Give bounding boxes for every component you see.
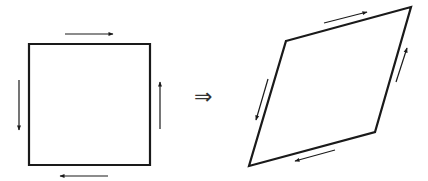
square-shape <box>29 44 150 165</box>
implies-arrow-icon: ⇒ <box>194 86 212 108</box>
parallelogram-group <box>249 7 411 166</box>
square-group <box>19 34 160 176</box>
parallelogram-shape <box>249 7 411 166</box>
parallelogram-left-arrow-down-icon <box>256 79 268 120</box>
parallelogram-shear-arrows <box>256 12 407 161</box>
square-shear-arrows <box>19 34 160 176</box>
shear-diagram <box>0 0 428 181</box>
